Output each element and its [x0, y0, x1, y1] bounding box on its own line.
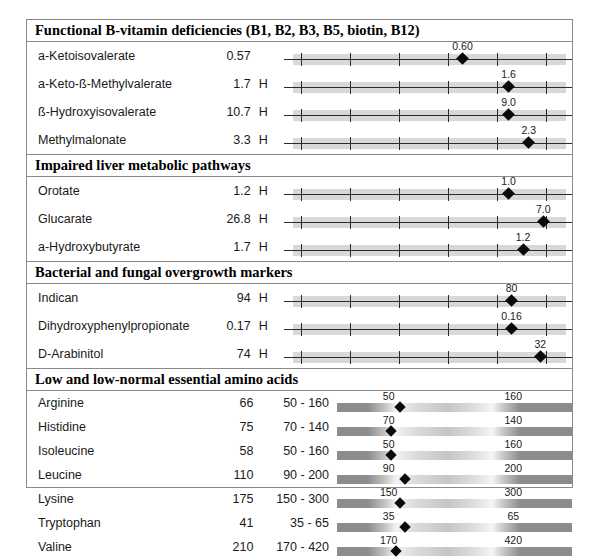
scale-axis-line: [284, 357, 572, 358]
table-row: Lysine175150 - 300150300: [27, 487, 572, 511]
reference-range: 35 - 65: [253, 516, 329, 530]
scale-tick: [350, 81, 351, 94]
range-high-label: 160: [504, 390, 522, 402]
analyte-name: Isoleucine: [27, 444, 207, 458]
scale-axis-line: [284, 329, 572, 330]
scale-tick: [350, 53, 351, 66]
range-high-label: 200: [504, 462, 522, 474]
scale-tick: [301, 188, 302, 201]
range-high-label: 160: [504, 438, 522, 450]
scale-tick: [546, 323, 547, 336]
scale-tick: [448, 188, 449, 201]
scale-tick: [546, 295, 547, 308]
reference-scale-graph: 2.3: [284, 126, 572, 154]
scale-tick: [301, 137, 302, 150]
table-row: Methylmalonate3.3H2.3: [27, 126, 572, 154]
scale-tick: [448, 81, 449, 94]
reference-range: 50 - 160: [253, 444, 329, 458]
table-row: Histidine7570 - 14070140: [27, 415, 572, 439]
reference-scale-graph: 0.16: [284, 312, 572, 340]
analyte-value: 0.17: [205, 319, 251, 333]
section-header-functional-b-vitamin-deficiencies: Functional B-vitamin deficiencies (B1, B…: [27, 20, 572, 42]
scale-tick: [546, 109, 547, 122]
marker-value-label: 2.3: [521, 124, 536, 136]
table-row: Dihydroxyphenylpropionate0.17H0.16: [27, 312, 572, 340]
analyte-name: Valine: [27, 540, 207, 554]
gradient-track: [337, 499, 572, 508]
table-row: Isoleucine5850 - 16050160: [27, 439, 572, 463]
scale-tick: [448, 137, 449, 150]
scale-axis-line: [284, 87, 572, 88]
range-low-label: 90: [383, 462, 395, 474]
reference-gradient-graph: 150300: [337, 487, 572, 511]
scale-tick: [301, 351, 302, 364]
scale-tick: [497, 188, 498, 201]
high-flag: H: [251, 347, 272, 361]
scale-tick: [399, 244, 400, 257]
analyte-name: a-Keto-ß-Methylvalerate: [27, 77, 205, 91]
range-high-label: 140: [504, 414, 522, 426]
marker-value-label: 0.60: [452, 40, 472, 52]
table-row: Leucine11090 - 20090200: [27, 463, 572, 487]
scale-tick: [301, 109, 302, 122]
analyte-name: Glucarate: [27, 212, 205, 226]
reference-scale-graph: 0.60: [284, 42, 572, 70]
table-row: Glucarate26.8H7.0: [27, 205, 572, 233]
scale-axis-line: [284, 222, 572, 223]
range-high-label: 65: [507, 510, 519, 522]
high-flag: H: [251, 319, 272, 333]
scale-tick: [399, 351, 400, 364]
section-header-bacterial-and-fungal-overgrowth-markers: Bacterial and fungal overgrowth markers: [27, 261, 572, 284]
table-row: D-Arabinitol74H32: [27, 340, 572, 368]
reference-range: 150 - 300: [253, 492, 329, 506]
scale-tick: [301, 81, 302, 94]
range-low-label: 170: [380, 534, 398, 546]
analyte-value: 26.8: [205, 212, 251, 226]
scale-axis-line: [284, 59, 572, 60]
marker-value-label: 1.6: [501, 68, 516, 80]
reference-gradient-graph: 70140: [337, 415, 572, 439]
analyte-name: Histidine: [27, 420, 207, 434]
table-row: a-Hydroxybutyrate1.7H1.2: [27, 233, 572, 261]
table-row: Tryptophan4135 - 653565: [27, 511, 572, 535]
analyte-name: Methylmalonate: [27, 133, 205, 147]
analyte-value: 41: [207, 516, 254, 530]
range-low-label: 35: [383, 510, 395, 522]
scale-tick: [497, 137, 498, 150]
gradient-track: [337, 475, 572, 484]
scale-axis-line: [284, 194, 572, 195]
analyte-value: 3.3: [205, 133, 251, 147]
lab-report-table: Functional B-vitamin deficiencies (B1, B…: [26, 19, 573, 488]
scale-tick: [399, 216, 400, 229]
scale-tick: [399, 81, 400, 94]
reference-gradient-graph: 3565: [337, 511, 572, 535]
high-flag: H: [251, 184, 272, 198]
reference-range: 90 - 200: [253, 468, 329, 482]
reference-range: 170 - 420: [253, 540, 329, 554]
scale-tick: [497, 109, 498, 122]
scale-tick: [448, 351, 449, 364]
analyte-value: 75: [207, 420, 254, 434]
scale-tick: [350, 216, 351, 229]
section-header-impaired-liver-metabolic-pathways: Impaired liver metabolic pathways: [27, 154, 572, 177]
analyte-name: Indican: [27, 291, 205, 305]
reference-range: 50 - 160: [253, 396, 329, 410]
scale-tick: [301, 244, 302, 257]
analyte-name: Lysine: [27, 492, 207, 506]
reference-range: 70 - 140: [253, 420, 329, 434]
high-flag: H: [251, 77, 272, 91]
analyte-value: 1.2: [205, 184, 251, 198]
scale-tick: [497, 244, 498, 257]
gradient-track: [337, 403, 572, 412]
analyte-value: 94: [205, 291, 251, 305]
analyte-value: 58: [207, 444, 254, 458]
analyte-value: 10.7: [205, 105, 251, 119]
reference-gradient-graph: 170420: [337, 535, 572, 559]
analyte-value: 66: [207, 396, 254, 410]
range-high-label: 300: [504, 486, 522, 498]
reference-scale-graph: 7.0: [284, 205, 572, 233]
scale-tick: [399, 53, 400, 66]
table-row: a-Ketoisovalerate0.570.60: [27, 42, 572, 70]
table-row: Indican94H80: [27, 284, 572, 312]
analyte-name: Tryptophan: [27, 516, 207, 530]
